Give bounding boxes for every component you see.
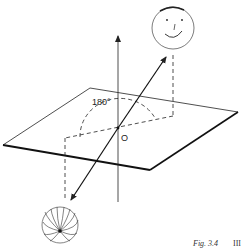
origin-label: O bbox=[121, 133, 128, 143]
page-marker: III bbox=[233, 239, 241, 248]
inversion-diagram: 180° O Fig. 3.4 III bbox=[0, 0, 244, 248]
smiley-face-sphere bbox=[152, 7, 194, 49]
origin-point bbox=[117, 127, 120, 130]
plane bbox=[3, 88, 238, 170]
figure-caption: Fig. 3.4 bbox=[192, 239, 218, 248]
meridian-sphere bbox=[42, 207, 78, 243]
angle-label: 180° bbox=[92, 97, 111, 107]
